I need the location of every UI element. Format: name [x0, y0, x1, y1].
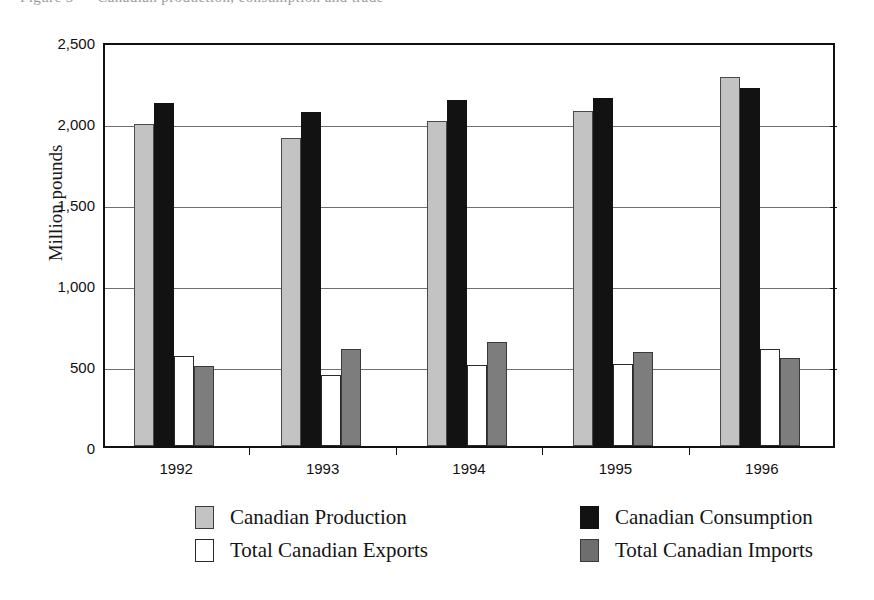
bar-1994-exports	[467, 365, 487, 446]
bar-1994-imports	[487, 342, 507, 446]
legend-label-2: Total Canadian Exports	[230, 538, 428, 563]
bar-1994-consumption	[447, 100, 467, 446]
bar-1996-consumption	[740, 88, 760, 446]
y-tick-label-2000: 2,000	[5, 116, 95, 133]
x-tick-label-1992: 1992	[131, 460, 221, 477]
bar-1996-exports	[760, 349, 780, 446]
y-tick-label-0: 0	[5, 440, 95, 457]
y-tick-mark-500	[830, 369, 837, 370]
bar-1996-production	[720, 77, 740, 446]
chart-legend: Canadian ProductionCanadian ConsumptionT…	[195, 505, 835, 575]
legend-entry-0[interactable]: Canadian Production	[195, 505, 407, 530]
y-tick-mark-2000	[830, 126, 837, 127]
legend-swatch-exports	[195, 539, 214, 562]
legend-entry-3[interactable]: Total Canadian Imports	[580, 538, 813, 563]
x-tick-mark-3	[542, 448, 543, 455]
bar-1995-exports	[613, 364, 633, 446]
x-tick-label-1993: 1993	[278, 460, 368, 477]
y-tick-label-1500: 1,500	[5, 197, 95, 214]
bar-1996-imports	[780, 358, 800, 446]
y-tick-mark-1500	[830, 207, 837, 208]
bar-1995-consumption	[593, 98, 613, 446]
x-tick-label-1995: 1995	[570, 460, 660, 477]
bar-chart-figure: Million pounds 05001,0001,5002,0002,500 …	[0, 0, 874, 600]
y-tick-label-1000: 1,000	[5, 278, 95, 295]
legend-swatch-production	[195, 506, 214, 529]
bar-1992-consumption	[154, 103, 174, 446]
x-tick-label-1996: 1996	[717, 460, 807, 477]
legend-swatch-imports	[580, 539, 599, 562]
y-axis-tick-labels: 05001,0001,5002,0002,500	[0, 43, 95, 448]
x-tick-mark-4	[689, 448, 690, 455]
y-tick-mark-1000	[830, 288, 837, 289]
legend-label-0: Canadian Production	[230, 505, 407, 530]
bar-1994-production	[427, 121, 447, 446]
bar-1993-consumption	[301, 112, 321, 446]
y-tick-label-500: 500	[5, 359, 95, 376]
bar-1993-imports	[341, 349, 361, 446]
legend-label-1: Canadian Consumption	[615, 505, 813, 530]
x-axis: 19921993199419951996	[103, 448, 835, 488]
bar-1995-production	[573, 111, 593, 446]
bar-1992-imports	[194, 366, 214, 446]
bar-1993-exports	[321, 375, 341, 446]
bar-1992-production	[134, 124, 154, 446]
plot-inner	[105, 45, 833, 446]
x-tick-mark-1	[249, 448, 250, 455]
legend-entry-2[interactable]: Total Canadian Exports	[195, 538, 428, 563]
legend-swatch-consumption	[580, 506, 599, 529]
bar-1995-imports	[633, 352, 653, 446]
x-tick-label-1994: 1994	[424, 460, 514, 477]
y-tick-label-2500: 2,500	[5, 35, 95, 52]
legend-entry-1[interactable]: Canadian Consumption	[580, 505, 813, 530]
bar-1993-production	[281, 138, 301, 446]
x-tick-mark-2	[396, 448, 397, 455]
legend-label-3: Total Canadian Imports	[615, 538, 813, 563]
plot-area	[103, 43, 835, 448]
bar-1992-exports	[174, 356, 194, 446]
